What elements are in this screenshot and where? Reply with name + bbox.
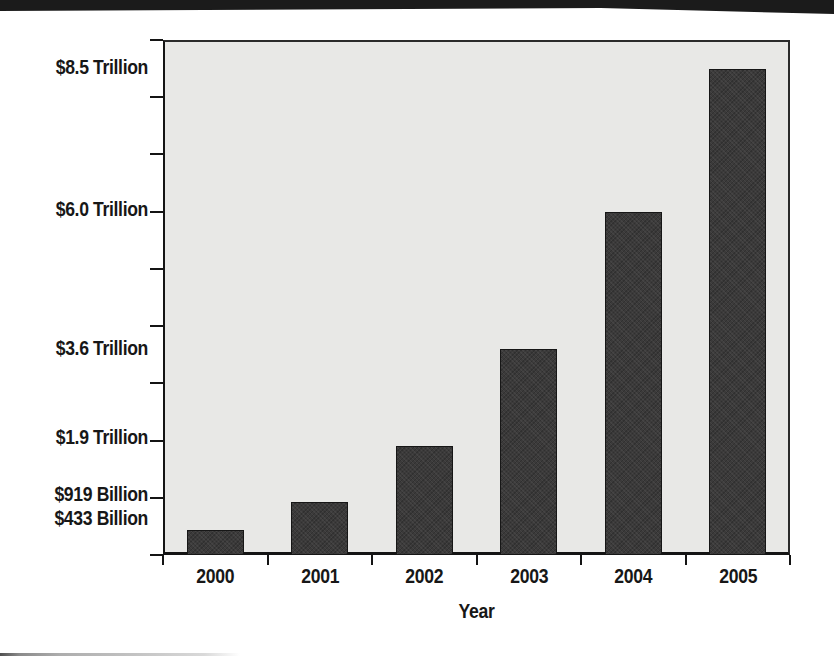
- x-tick: [789, 555, 791, 565]
- y-axis-value-label: $1.9 Trillion: [18, 426, 148, 448]
- y-tick: [150, 211, 163, 213]
- x-axis-title: Year: [201, 600, 753, 622]
- bar-2002: [396, 446, 453, 555]
- y-tick: [150, 39, 163, 41]
- y-tick: [150, 382, 163, 384]
- plot-area: [163, 40, 790, 555]
- y-tick: [150, 153, 163, 155]
- x-axis-category-label: 2004: [587, 565, 679, 587]
- y-axis-value-label: $919 Billion: [18, 483, 148, 505]
- bar-2005: [709, 69, 766, 555]
- y-tick: [150, 96, 163, 98]
- x-tick: [371, 555, 373, 565]
- page-artifact-line: [0, 653, 240, 656]
- y-tick: [150, 325, 163, 327]
- y-tick: [150, 497, 163, 499]
- bar-2000: [187, 530, 244, 555]
- y-axis-value-label: $8.5 Trillion: [18, 56, 148, 78]
- x-axis-category-label: 2001: [274, 565, 366, 587]
- x-axis-category-label: 2005: [692, 565, 784, 587]
- page-header-rule: [0, 0, 834, 15]
- x-tick: [162, 555, 164, 565]
- bar-2003: [500, 349, 557, 555]
- x-tick: [476, 555, 478, 565]
- y-axis-value-label: $3.6 Trillion: [18, 337, 148, 359]
- y-tick: [150, 440, 163, 442]
- x-tick: [267, 555, 269, 565]
- x-axis-category-label: 2002: [378, 565, 470, 587]
- x-axis-category-label: 2000: [169, 565, 261, 587]
- x-tick: [580, 555, 582, 565]
- x-axis-category-label: 2003: [483, 565, 575, 587]
- x-tick: [685, 555, 687, 565]
- y-axis-value-label: $6.0 Trillion: [18, 198, 148, 220]
- y-tick: [150, 268, 163, 270]
- y-axis-value-label: $433 Billion: [18, 507, 148, 529]
- bar-2001: [291, 502, 348, 555]
- bar-2004: [605, 212, 662, 555]
- scanned-book-page: $433 Billion$919 Billion$1.9 Trillion$3.…: [0, 0, 834, 659]
